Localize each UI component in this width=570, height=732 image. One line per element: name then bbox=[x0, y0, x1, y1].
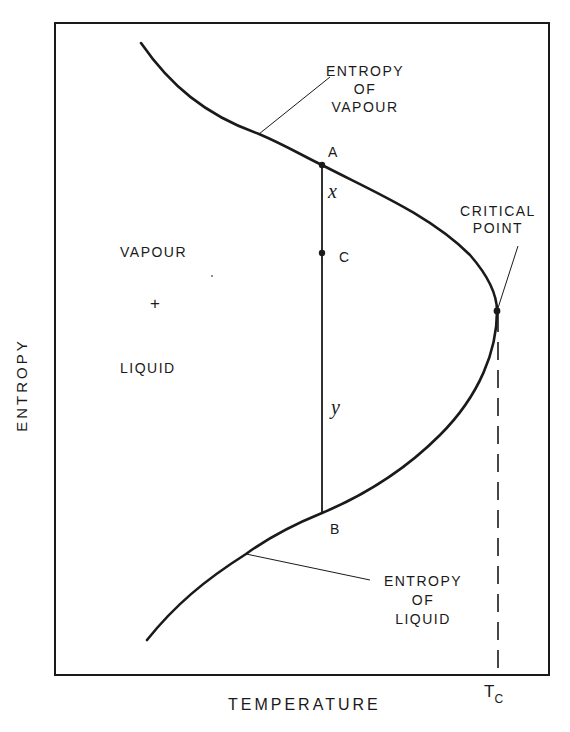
liquid-label-line2: OF bbox=[368, 592, 478, 608]
critical-temperature-tick-label: TC bbox=[484, 684, 503, 701]
speck bbox=[211, 275, 213, 277]
region-plus-label: + bbox=[150, 296, 161, 312]
region-vapour-label: VAPOUR bbox=[120, 244, 187, 260]
region-liquid-label: LIQUID bbox=[120, 360, 176, 376]
critical-point-label: CRITICAL POINT bbox=[448, 203, 548, 236]
liquid-label-line3: LIQUID bbox=[368, 611, 478, 627]
x-axis-label: TEMPERATURE bbox=[228, 697, 381, 713]
critical-label-line1: CRITICAL bbox=[448, 203, 548, 219]
point-b-label: B bbox=[330, 521, 341, 537]
critical-point-leader bbox=[498, 246, 518, 308]
point-c-label: C bbox=[339, 249, 351, 265]
liquid-curve-label: ENTROPY OF LIQUID bbox=[368, 573, 478, 627]
liquid-curve-leader bbox=[246, 554, 370, 580]
diagram-canvas bbox=[0, 0, 570, 732]
liquid-label-line1: ENTROPY bbox=[368, 573, 478, 589]
tc-subscript: C bbox=[494, 692, 503, 706]
segment-y-label: y bbox=[331, 399, 340, 415]
vapour-label-line3: VAPOUR bbox=[310, 99, 420, 115]
point-c-marker bbox=[319, 250, 325, 256]
point-a-label: A bbox=[328, 144, 339, 160]
vapour-label-line2: OF bbox=[310, 81, 420, 97]
y-axis-label: ENTROPY bbox=[14, 338, 30, 432]
point-a-marker bbox=[319, 162, 325, 168]
tc-main: T bbox=[484, 682, 494, 701]
critical-point-marker bbox=[494, 308, 501, 315]
saturation-curve bbox=[141, 43, 497, 640]
vapour-label-line1: ENTROPY bbox=[310, 63, 420, 79]
segment-x-label: x bbox=[328, 183, 337, 199]
vapour-curve-label: ENTROPY OF VAPOUR bbox=[310, 63, 420, 115]
critical-label-line2: POINT bbox=[448, 220, 548, 236]
